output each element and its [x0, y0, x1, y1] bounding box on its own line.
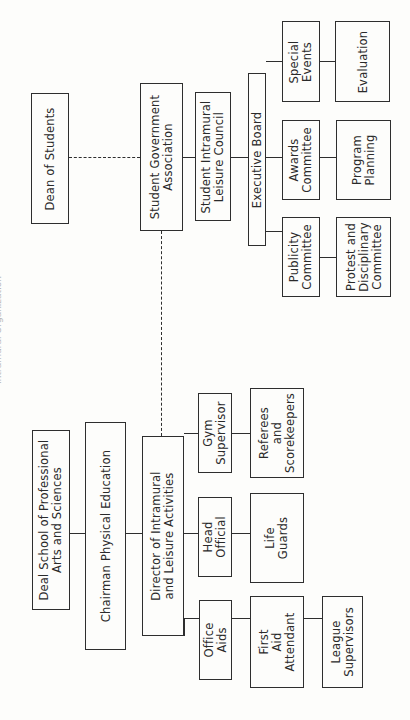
node-label: Special Events [288, 40, 314, 83]
node-executive-board: Executive Board [248, 73, 266, 246]
node-label: Student Government Association [149, 95, 175, 219]
node-head-official: Head Official [198, 497, 232, 577]
node-label: Office Aids [203, 623, 229, 658]
node-evaluation: Evaluation [335, 21, 390, 102]
connector-sga-director [161, 231, 162, 436]
connector-director-office [184, 618, 199, 619]
node-league-supervisors: League Supervisors [322, 596, 363, 688]
connector-exec-publicity [266, 231, 282, 232]
connector-director-gym [184, 433, 198, 434]
node-office-aids: Office Aids [199, 600, 232, 680]
node-referees-scorekeepers: Referees and Scorekeepers [250, 388, 304, 478]
node-chairman-physical-education: Chairman Physical Education [85, 422, 126, 650]
node-publicity-committee: Publicity Committee [282, 217, 320, 297]
connector-exec-awards [266, 157, 282, 158]
node-label: Protest and Disciplinary Committee [344, 222, 383, 292]
connector-sga-silc [183, 157, 195, 158]
connector-dean-sga [69, 157, 140, 158]
node-student-intramural-leisure-council: Student Intramural Leisure Council [195, 92, 231, 221]
connector-head-lifeguards [232, 533, 250, 534]
connector-silc-exec [231, 157, 248, 158]
node-label: Head Official [202, 516, 228, 558]
node-label: League Supervisors [330, 607, 356, 677]
node-label: Program Planning [351, 134, 377, 185]
node-student-government-association: Student Government Association [140, 83, 183, 231]
node-label: Dean of Students [44, 107, 57, 210]
connector-director-office-stem [184, 618, 185, 636]
connector-firstaid-league [304, 618, 322, 619]
connector-special-evaluation [320, 61, 335, 62]
node-label: Gym Supervisor [202, 401, 228, 464]
connector-office-firstaid [232, 618, 250, 619]
node-gym-supervisor: Gym Supervisor [198, 393, 232, 473]
node-label: Director of Intramural and Leisure Activ… [150, 471, 176, 600]
node-deal-school: Deal School of Professional Arts and Sci… [32, 430, 70, 610]
connector-chair-director [126, 533, 142, 534]
node-label: Deal School of Professional Arts and Sci… [38, 440, 64, 601]
connector-director-head [184, 533, 198, 534]
node-label: Awards Committee [288, 127, 314, 193]
node-special-events: Special Events [282, 21, 320, 102]
node-director-intramural: Director of Intramural and Leisure Activ… [142, 436, 184, 636]
node-protest-disciplinary-committee: Protest and Disciplinary Committee [336, 217, 391, 297]
node-label: Executive Board [251, 111, 264, 207]
node-label: Life Guards [264, 517, 290, 559]
connector-deal-chair [70, 533, 85, 534]
node-program-planning: Program Planning [336, 120, 391, 200]
connector-gym-referees [232, 433, 250, 434]
node-label: Student Intramural Leisure Council [200, 100, 226, 213]
connector-publicity-protest [320, 257, 336, 258]
connector-awards-program [320, 157, 336, 158]
connector-exec-special [266, 61, 282, 62]
node-life-guards: Life Guards [250, 493, 304, 583]
node-label: Referees and Scorekeepers [258, 393, 297, 473]
node-label: Publicity Committee [288, 224, 314, 290]
node-label: First Aid Attendant [258, 613, 297, 672]
node-label: Evaluation [356, 30, 369, 93]
node-label: Chairman Physical Education [99, 450, 112, 622]
node-awards-committee: Awards Committee [282, 120, 320, 200]
node-dean-of-students: Dean of Students [31, 93, 69, 224]
chart-title: Intramural Organization [0, 276, 3, 384]
node-first-aid-attendant: First Aid Attendant [250, 596, 304, 688]
org-chart-canvas: Intramural Organization Dean of Students… [0, 0, 410, 720]
